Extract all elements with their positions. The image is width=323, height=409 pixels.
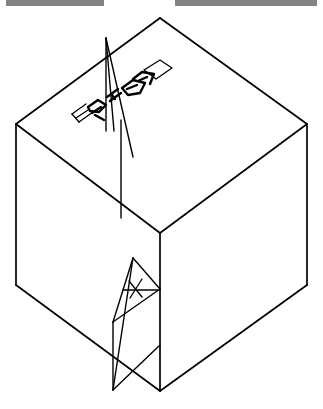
letter-i-glyph: [107, 89, 121, 101]
upper-fin: [106, 38, 133, 218]
lower-fin-cross-edge: [113, 289, 160, 322]
cube-edge-top-right: [160, 18, 307, 124]
letter-r-glyph: [88, 100, 106, 120]
letter-d-glyph: [122, 80, 145, 95]
isometric-cube-figure: [0, 0, 323, 409]
lower-fin-base-edge: [113, 345, 160, 390]
top-face-lettering: [72, 60, 172, 122]
lower-fin-edge-right: [133, 258, 160, 289]
letter-box-glyph: [144, 60, 172, 79]
cube-drawing-canvas: [0, 0, 323, 409]
cube-interior-edges: [16, 124, 307, 391]
cube-outline: [16, 18, 307, 391]
upper-fin-edge-right: [106, 38, 133, 157]
cube-edge-bottom-left: [16, 285, 160, 391]
lower-fin: [113, 258, 160, 390]
page-root: Isometric Cube Wireframe Drawing Wirefra…: [0, 0, 323, 409]
cube-interior-edge-right: [160, 124, 307, 233]
lower-fin-edge-left: [113, 258, 133, 390]
cube-edge-bottom-right: [160, 285, 307, 391]
cube-interior-edge-left: [16, 124, 160, 233]
